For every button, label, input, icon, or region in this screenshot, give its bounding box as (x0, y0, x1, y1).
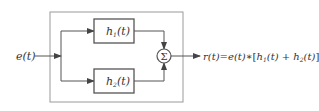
formula-h1-arg: (t) (267, 51, 279, 62)
formula-lhs: r(t) (203, 51, 220, 62)
block-h1: h1(t) (94, 19, 134, 43)
output-formula: r(t)=e(t)∗[h1(t) + h2(t)] (203, 51, 319, 63)
sigma-icon: Σ (160, 51, 167, 62)
svg-text:h1(t): h1(t) (106, 25, 130, 38)
h2-label-arg: (t) (117, 75, 130, 88)
h1-label-main: h (106, 25, 113, 38)
formula-input: e(t) (228, 51, 246, 62)
formula-h2-arg: (t) (304, 51, 316, 62)
input-label: e(t) (16, 50, 36, 63)
h1-to-sum-line (134, 31, 164, 49)
block-h2: h2(t) (94, 69, 134, 93)
h2-to-sum-line (134, 63, 164, 81)
block-diagram: h1(t) h2(t) Σ e(t) r(t)=e(t)∗[h1(t) + h2… (0, 0, 319, 111)
h2-label-main: h (106, 75, 113, 88)
summing-junction: Σ (157, 49, 171, 63)
svg-text:h2(t): h2(t) (106, 75, 130, 88)
formula-plus: + (279, 51, 294, 62)
formula-close-bracket: ] (315, 51, 319, 62)
h1-label-arg: (t) (117, 25, 130, 38)
formula-convolution: ∗ (246, 51, 253, 62)
formula-eq: = (220, 51, 228, 62)
